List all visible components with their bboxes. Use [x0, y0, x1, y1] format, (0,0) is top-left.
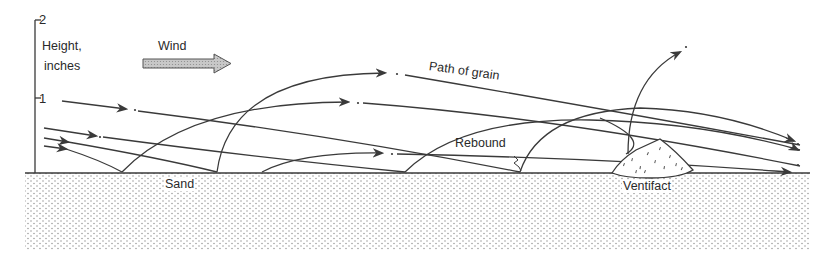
axis-title-line2: inches	[44, 60, 80, 73]
ventifact-label: Ventifact	[622, 180, 672, 193]
saltation-diagram: 2 1 Height, inches Wind Path of grain Re…	[0, 0, 831, 263]
sand-bed	[25, 173, 810, 250]
ventifact	[612, 139, 693, 178]
axis-tick-2: 2	[39, 13, 46, 26]
wind-label: Wind	[158, 40, 186, 53]
rebound-label: Rebound	[455, 137, 506, 150]
rebound-pointer	[514, 156, 521, 171]
axis-tick-1: 1	[39, 92, 46, 105]
axis-title-line1: Height,	[42, 40, 82, 53]
grain-paths	[44, 52, 800, 172]
sand-label: Sand	[164, 178, 195, 191]
wind-arrow-icon	[143, 54, 231, 73]
